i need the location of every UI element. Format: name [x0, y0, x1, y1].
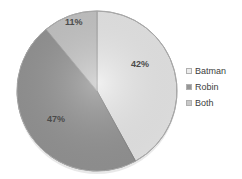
pie-data-label-both: 11% [65, 17, 83, 27]
pie-chart-figure: 42% 47% 11% Batman Robin Both [0, 0, 242, 179]
pie-plot-area: 42% 47% 11% [0, 0, 180, 179]
legend-swatch-robin [186, 84, 192, 90]
legend-swatch-both [186, 100, 192, 106]
legend-swatch-batman [186, 68, 192, 74]
legend-label-robin: Robin [195, 82, 219, 92]
legend-label-batman: Batman [195, 66, 226, 76]
pie-data-label-robin: 47% [47, 114, 65, 124]
legend-item-both[interactable]: Both [186, 95, 242, 110]
pie-svg [0, 0, 180, 179]
pie-shading [17, 11, 177, 171]
pie-data-label-batman: 42% [131, 59, 149, 69]
legend-item-batman[interactable]: Batman [186, 63, 242, 78]
legend-label-both: Both [195, 98, 214, 108]
chart-legend: Batman Robin Both [186, 63, 242, 111]
legend-item-robin[interactable]: Robin [186, 79, 242, 94]
